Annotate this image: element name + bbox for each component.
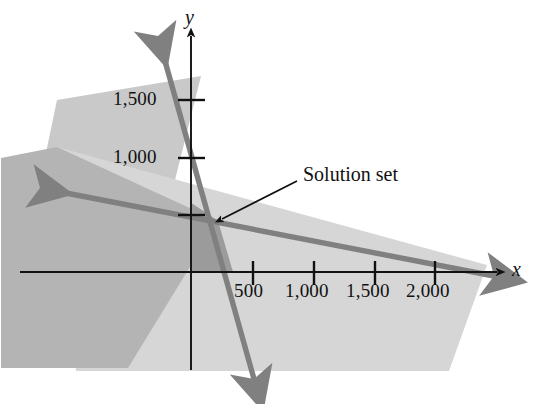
x-tick-label-1500: 1,500 [346, 280, 390, 302]
x-axis-label: x [512, 258, 521, 281]
inequality-graph-figure: 1,500 1,000 500 1,000 1,500 2,000 y x So… [0, 0, 551, 404]
x-tick-label-1000: 1,000 [285, 280, 329, 302]
x-tick-label-2000: 2,000 [406, 280, 450, 302]
y-tick-label-1000: 1,000 [113, 146, 157, 168]
y-tick-label-1500: 1,500 [113, 88, 157, 110]
graph-canvas [0, 0, 551, 404]
y-axis-label: y [185, 6, 194, 29]
solution-set-label: Solution set [303, 163, 398, 186]
x-tick-label-500: 500 [234, 280, 263, 302]
